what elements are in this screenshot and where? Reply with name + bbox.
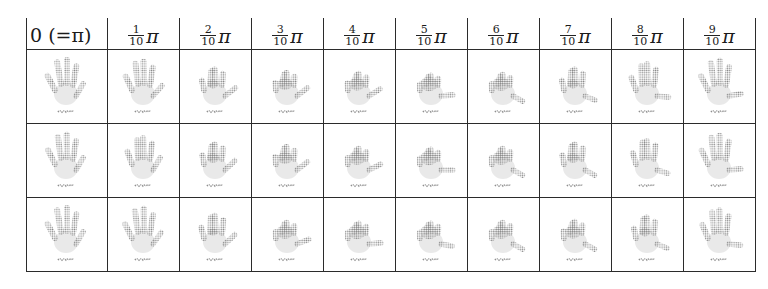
pose-cell [108, 50, 180, 124]
pose-cell [27, 50, 108, 124]
numerator: 2 [204, 24, 213, 35]
pose-cell [324, 124, 396, 198]
fist-image [401, 128, 463, 194]
fraction: 410 [344, 24, 360, 47]
partial-fist-image [545, 128, 607, 194]
fist-image [401, 54, 463, 120]
pose-cell [27, 198, 108, 272]
pose-row-sequence-1 [27, 50, 756, 124]
fraction: 110 [128, 24, 144, 47]
partial-fist-image [185, 128, 247, 194]
angle-header-6: 610π [468, 18, 540, 50]
pose-cell [324, 50, 396, 124]
numerator: 1 [132, 24, 141, 35]
partial-fist-image [185, 54, 247, 120]
denominator: 10 [272, 35, 288, 47]
angle-label: 0 (=π) [27, 21, 91, 49]
pose-cell [468, 198, 540, 272]
partial-fist-image [257, 128, 319, 194]
fist-image [329, 128, 391, 194]
pose-cell [252, 198, 324, 272]
pi-symbol: π [506, 25, 519, 47]
denominator: 10 [128, 35, 144, 47]
pose-cell [612, 124, 684, 198]
angle-fraction: 810π [632, 24, 663, 49]
fraction: 710 [560, 24, 576, 47]
angle-fraction: 110π [128, 24, 159, 49]
angle-fraction: 910π [704, 24, 735, 49]
open-hand-image [36, 54, 98, 120]
fraction: 310 [272, 24, 288, 47]
numerator: 8 [636, 24, 645, 35]
angle-fraction: 310π [272, 24, 303, 49]
pose-cell [180, 124, 252, 198]
angle-header-0: 0 (=π) [27, 18, 108, 50]
denominator: 10 [200, 35, 216, 47]
pose-cell [540, 198, 612, 272]
fist-image [473, 202, 535, 268]
pi-symbol: π [578, 25, 591, 47]
open-hand-image [36, 202, 98, 268]
pose-row-sequence-2 [27, 124, 756, 198]
fraction: 910 [704, 24, 720, 47]
pi-symbol: π [290, 25, 303, 47]
angle-header-2: 210π [180, 18, 252, 50]
numerator: 6 [492, 24, 501, 35]
open-hand-image [113, 202, 175, 268]
numerator: 9 [708, 24, 717, 35]
open-hand-image [113, 54, 175, 120]
angle-header-5: 510π [396, 18, 468, 50]
pose-cell [612, 50, 684, 124]
pose-cell [468, 124, 540, 198]
pose-rows [27, 50, 756, 272]
denominator: 10 [704, 35, 720, 47]
hand-pose-figure-table: 0 (=π)110π210π310π410π510π610π710π810π91… [26, 18, 756, 272]
denominator: 10 [416, 35, 432, 47]
angle-header-8: 810π [612, 18, 684, 50]
open-hand-image [689, 54, 751, 120]
pose-cell [468, 50, 540, 124]
partial-fist-image [545, 54, 607, 120]
pose-cell [540, 50, 612, 124]
denominator: 10 [560, 35, 576, 47]
pose-cell [396, 50, 468, 124]
denominator: 10 [488, 35, 504, 47]
pose-cell [396, 124, 468, 198]
pose-cell [540, 124, 612, 198]
angle-header-3: 310π [252, 18, 324, 50]
numerator: 4 [348, 24, 357, 35]
partial-fist-image [257, 54, 319, 120]
partial-fist-image [617, 128, 679, 194]
fist-image [401, 202, 463, 268]
open-hand-image [617, 54, 679, 120]
partial-fist-image [329, 54, 391, 120]
angle-fraction: 710π [560, 24, 591, 49]
pi-symbol: π [650, 25, 663, 47]
open-hand-image [689, 202, 751, 268]
angle-fraction: 610π [488, 24, 519, 49]
pose-cell [108, 198, 180, 272]
open-hand-image [113, 128, 175, 194]
fraction: 210 [200, 24, 216, 47]
fist-image [329, 202, 391, 268]
pose-cell [684, 124, 756, 198]
pose-cell [252, 50, 324, 124]
angle-fraction: 410π [344, 24, 375, 49]
angle-header-4: 410π [324, 18, 396, 50]
partial-fist-image [185, 202, 247, 268]
fraction: 610 [488, 24, 504, 47]
pose-cell [252, 124, 324, 198]
denominator: 10 [632, 35, 648, 47]
numerator: 3 [276, 24, 285, 35]
partial-fist-image [617, 202, 679, 268]
pose-row-sequence-3 [27, 198, 756, 272]
angle-header-9: 910π [684, 18, 756, 50]
angle-header-7: 710π [540, 18, 612, 50]
fraction: 510 [416, 24, 432, 47]
pose-cell [396, 198, 468, 272]
numerator: 7 [564, 24, 573, 35]
numerator: 5 [420, 24, 429, 35]
pose-grid: 0 (=π)110π210π310π410π510π610π710π810π91… [26, 18, 756, 272]
fist-image [257, 202, 319, 268]
pose-cell [684, 50, 756, 124]
